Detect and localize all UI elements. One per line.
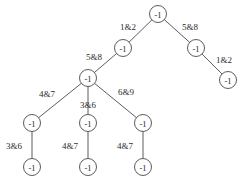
- tree-edge-label: 5&8: [86, 52, 103, 62]
- tree-edge-label: 3&6: [80, 100, 97, 110]
- tree-node[interactable]: -1: [115, 40, 132, 57]
- tree-edge-label: 4&7: [117, 141, 134, 151]
- tree-edge-label: 1&2: [120, 22, 136, 32]
- tree-edge-label: 4&7: [39, 89, 56, 99]
- tree-node-label: -1: [192, 44, 199, 54]
- tree-node[interactable]: -1: [24, 115, 41, 132]
- tree-node[interactable]: -1: [150, 6, 167, 23]
- tree-node-label: -1: [119, 44, 126, 54]
- tree-node[interactable]: -1: [80, 159, 97, 176]
- tree-node-label: -1: [84, 119, 91, 129]
- tree-edge-label: 6&9: [118, 87, 135, 97]
- tree-node-label: -1: [139, 163, 146, 173]
- tree-node-label: -1: [224, 76, 231, 86]
- tree-node[interactable]: -1: [80, 115, 97, 132]
- tree-svg-canvas: -1-1-1-1-1-1-1-1-1-1-1 1&25&85&81&24&73&…: [0, 0, 247, 189]
- tree-node-label: -1: [154, 10, 161, 20]
- tree-node-label: -1: [139, 119, 146, 129]
- tree-node-label: -1: [84, 74, 91, 84]
- tree-node[interactable]: -1: [24, 159, 41, 176]
- decision-tree-figure: -1-1-1-1-1-1-1-1-1-1-1 1&25&85&81&24&73&…: [0, 0, 247, 189]
- tree-edge-label: 5&8: [182, 22, 199, 32]
- tree-node[interactable]: -1: [135, 115, 152, 132]
- tree-node-label: -1: [28, 119, 35, 129]
- tree-node[interactable]: -1: [135, 159, 152, 176]
- tree-node[interactable]: -1: [80, 70, 97, 87]
- tree-edge-label: 4&7: [62, 141, 79, 151]
- tree-node[interactable]: -1: [188, 40, 205, 57]
- tree-edge-label: 1&2: [216, 55, 232, 65]
- tree-node-label: -1: [84, 163, 91, 173]
- tree-node[interactable]: -1: [220, 72, 237, 89]
- tree-edge-label: 3&6: [6, 141, 23, 151]
- tree-node-label: -1: [28, 163, 35, 173]
